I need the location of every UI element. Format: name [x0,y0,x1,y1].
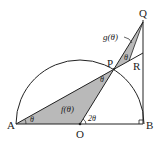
label-R: R [133,60,141,72]
label-P: P [107,57,113,69]
region-label-f: f(θ) [61,104,74,114]
angle-arc-O [83,119,86,124]
label-O: O [76,128,84,140]
region-label-g: g(θ) [103,32,118,42]
right-angle-mark [139,120,143,124]
geometry-diagram: A O B P Q R θ θ θ 2θ f(θ) g(θ) [0,0,161,151]
angle-label-A: θ [30,115,34,124]
label-B: B [146,119,153,131]
label-A: A [7,119,15,131]
angle-label-P-upper: θ [124,53,128,62]
angle-label-O: 2θ [88,114,96,123]
label-Q: Q [139,7,147,19]
angle-label-P-lower: θ [100,75,104,84]
point-P-dot [113,68,115,70]
point-O-dot [79,123,82,126]
